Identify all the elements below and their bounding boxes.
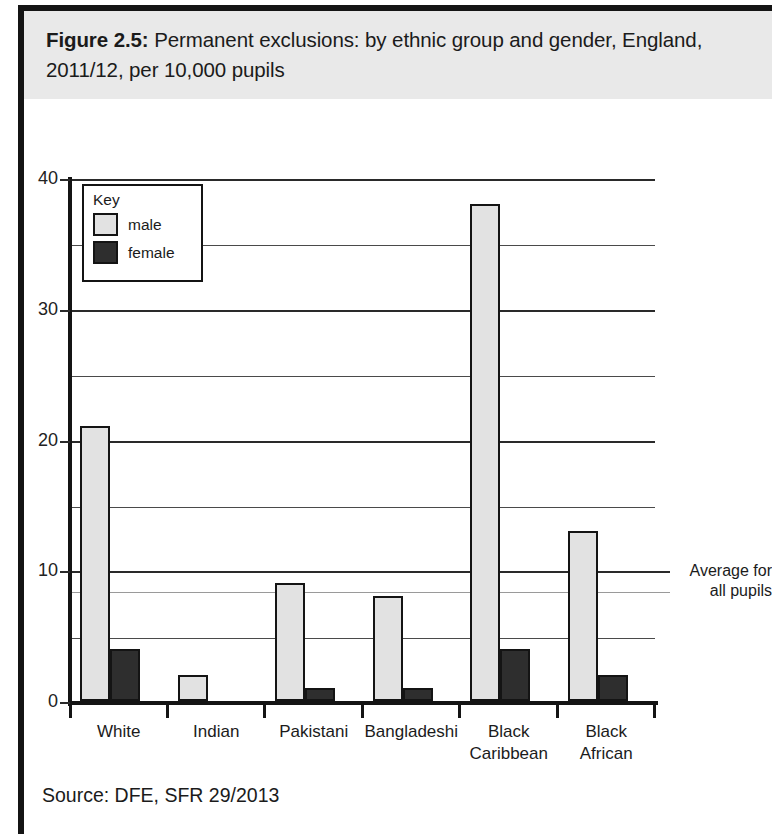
- legend-swatch-female-icon: [93, 241, 118, 264]
- bar-black-caribbean-male: [470, 204, 500, 701]
- figure-title-band: Figure 2.5: Permanent exclusions: by eth…: [24, 11, 772, 99]
- y-axis-tick-mark-0: [60, 702, 70, 704]
- category-label-line: Pakistani: [257, 721, 371, 743]
- figure-source: Source: DFE, SFR 29/2013: [42, 784, 279, 807]
- y-axis-tick-label-40: 40: [14, 168, 58, 189]
- category-label-line: African: [550, 743, 664, 765]
- category-label-line: Indian: [160, 721, 274, 743]
- y-axis-tick-mark-20: [60, 441, 70, 443]
- category-label-line: White: [62, 721, 176, 743]
- bar-indian-male: [178, 675, 208, 701]
- bar-bangladeshi-female: [403, 688, 433, 701]
- figure-frame: Figure 2.5: Permanent exclusions: by eth…: [0, 0, 772, 834]
- bar-pakistani-female: [305, 688, 335, 701]
- gridline-minor-15: [70, 507, 655, 508]
- x-axis-tick-mark-origin: [69, 705, 72, 718]
- legend-item-male: male: [93, 213, 201, 236]
- y-axis-tick-label-20: 20: [14, 430, 58, 451]
- chart-plot-area: WhiteIndianPakistaniBangladeshiBlackCari…: [24, 99, 772, 769]
- x-axis-tick-mark-4: [556, 705, 559, 718]
- legend-heading: Key: [93, 191, 201, 209]
- x-axis-tick-mark-1: [263, 705, 266, 718]
- x-axis-category-label-pakistani: Pakistani: [257, 721, 371, 743]
- x-axis-tick-mark-0: [166, 705, 169, 718]
- page-title: Figure 2.5: Permanent exclusions: by eth…: [46, 25, 750, 85]
- chart-legend: Key male female: [82, 184, 203, 282]
- bar-black-african-female: [598, 675, 628, 701]
- bar-white-male: [80, 426, 110, 701]
- x-axis-category-label-bangladeshi: Bangladeshi: [355, 721, 469, 743]
- legend-label-male: male: [128, 216, 162, 234]
- category-label-line: Caribbean: [452, 743, 566, 765]
- legend-label-female: female: [128, 244, 175, 262]
- y-axis-tick-mark-10: [60, 571, 70, 573]
- x-axis-tick-mark-3: [458, 705, 461, 718]
- average-annotation-line1: Average for: [674, 561, 772, 581]
- y-axis-tick-label-0: 0: [14, 691, 58, 712]
- gridline-major-20: [70, 441, 655, 443]
- x-axis-category-label-white: White: [62, 721, 176, 743]
- figure-number: Figure 2.5:: [46, 28, 149, 51]
- category-label-line: Black: [550, 721, 664, 743]
- x-axis-category-label-indian: Indian: [160, 721, 274, 743]
- y-axis-tick-mark-40: [60, 179, 70, 181]
- gridline-major-40: [70, 179, 655, 181]
- legend-swatch-male-icon: [93, 213, 118, 236]
- x-axis-tick-mark-2: [361, 705, 364, 718]
- gridline-major-30: [70, 310, 655, 312]
- bar-black-caribbean-female: [500, 649, 530, 701]
- y-axis-tick-label-10: 10: [14, 560, 58, 581]
- y-axis-tick-label-30: 30: [14, 299, 58, 320]
- x-axis-tick-mark-5: [653, 705, 656, 718]
- category-label-line: Bangladeshi: [355, 721, 469, 743]
- bar-bangladeshi-male: [373, 596, 403, 701]
- x-axis-category-label-black-african: BlackAfrican: [550, 721, 664, 765]
- legend-item-female: female: [93, 241, 201, 264]
- category-label-line: Black: [452, 721, 566, 743]
- bar-pakistani-male: [275, 583, 305, 701]
- bar-white-female: [110, 649, 140, 701]
- y-axis-tick-mark-30: [60, 310, 70, 312]
- average-annotation: Average for all pupils: [674, 561, 772, 601]
- bar-black-african-male: [568, 531, 598, 701]
- x-axis-category-label-black-caribbean: BlackCaribbean: [452, 721, 566, 765]
- gridline-minor-25: [70, 376, 655, 377]
- average-annotation-line2: all pupils: [674, 581, 772, 601]
